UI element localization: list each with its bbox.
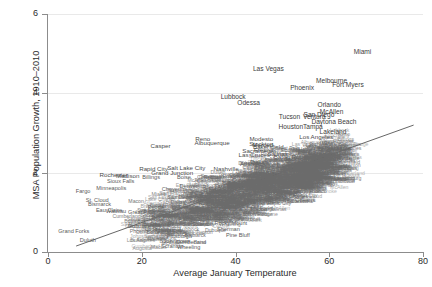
city-marker: Fargo	[76, 187, 91, 193]
city-marker: Albuquerque	[195, 139, 230, 145]
city-marker: Bismarck	[185, 232, 206, 238]
city-marker: Miami	[152, 191, 166, 197]
city-marker: Bismarck	[190, 207, 211, 213]
city-marker: Las Vegas	[153, 212, 177, 218]
city-marker: Tucson	[279, 114, 300, 120]
city-marker: Utica	[329, 166, 341, 172]
x-tick-label: 40	[223, 256, 249, 266]
city-marker: Fresno	[153, 225, 169, 231]
city-marker: Brownsville	[141, 202, 167, 208]
city-marker: St. Cloud	[302, 175, 323, 181]
city-marker: Odessa	[237, 100, 260, 106]
y-tick-label: 4	[24, 87, 38, 97]
city-marker: Duluth	[80, 237, 96, 243]
y-tick	[42, 14, 48, 15]
city-marker: Lynchburg	[223, 191, 247, 197]
city-marker: Houston	[279, 123, 304, 129]
y-tick-label: 2	[24, 167, 38, 177]
city-marker: Augusta	[133, 245, 152, 251]
city-marker: Wausau	[319, 137, 338, 143]
city-marker: Phoenix	[290, 85, 314, 91]
city-marker: Miami	[354, 48, 372, 54]
city-marker: Miami	[249, 153, 263, 159]
city-marker: Pine Bluff	[226, 231, 250, 237]
plot-area: MiamiLas VegasMelbourneFort MyersPhoenix…	[48, 14, 423, 252]
city-marker: Macon	[151, 244, 167, 250]
x-tick-label: 80	[410, 256, 432, 266]
city-marker: Ventura	[288, 148, 306, 154]
y-tick-label: 6	[24, 8, 38, 18]
x-tick-label: 60	[316, 256, 342, 266]
city-marker: Cumberland	[200, 199, 228, 205]
city-marker: Casper	[151, 143, 171, 149]
city-marker: Jacksonville	[194, 177, 222, 183]
city-marker: Duluth	[238, 160, 253, 166]
city-marker: Billings	[300, 197, 316, 203]
y-axis-title: MSA Population Growth, 1910–2010	[31, 5, 41, 245]
city-marker: Grand Forks	[58, 228, 89, 234]
city-marker: Wausau	[270, 196, 289, 202]
scatter-plot-figure: MSA Population Growth, 1910–2010 Average…	[0, 0, 432, 287]
city-marker: Sacramento	[288, 161, 316, 167]
city-marker: Minneapolis	[96, 185, 126, 191]
city-marker: Stockton	[249, 206, 269, 212]
city-marker: Salt Lake City	[174, 221, 206, 227]
city-marker: Boise	[193, 238, 206, 244]
x-axis-title: Average January Temperature	[48, 268, 422, 278]
y-tick	[42, 93, 48, 94]
x-tick-label: 0	[35, 256, 61, 266]
city-marker: Ventura	[206, 190, 224, 196]
city-marker: Dubuque	[205, 227, 226, 233]
y-axis-line	[47, 14, 48, 253]
y-tick-label: 0	[24, 246, 38, 256]
city-marker: Lubbock	[330, 127, 350, 133]
city-marker: Billings	[142, 173, 160, 179]
city-marker: Baton Rouge	[257, 182, 287, 188]
city-marker: Tucson	[174, 237, 191, 243]
city-marker: Houston	[148, 236, 167, 242]
city-marker: Las Vegas	[253, 66, 284, 72]
city-marker: San Francisco	[293, 188, 326, 194]
city-marker: Fort Myers	[332, 81, 364, 87]
city-marker: Roanoke	[236, 171, 257, 177]
city-marker: Wheeling	[177, 244, 200, 250]
city-marker: Reno	[329, 156, 341, 162]
y-tick	[42, 173, 48, 174]
city-marker: Brownsville	[206, 217, 232, 223]
city-marker: Las Vegas	[292, 141, 316, 147]
x-tick-label: 20	[129, 256, 155, 266]
